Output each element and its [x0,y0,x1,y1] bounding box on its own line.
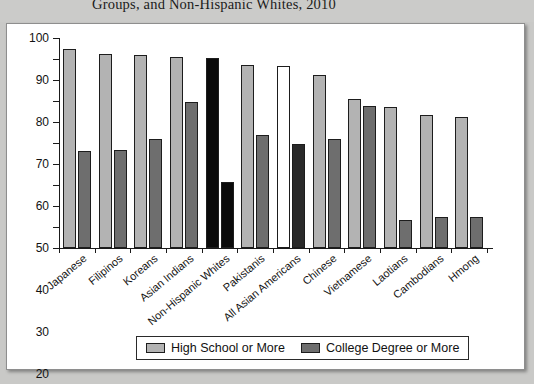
legend-item-high-school: High School or More [146,341,285,355]
bar [78,151,91,248]
bar [313,75,326,248]
bar-group [241,38,269,248]
bar [420,115,433,248]
legend-swatch-college [301,343,320,353]
bar-group [384,38,412,248]
y-axis-line [59,38,60,248]
y-tick-label: 50 [36,241,49,255]
bar [149,139,162,248]
legend-item-college: College Degree or More [301,341,459,355]
y-tick: 20 [53,206,59,207]
y-tick-label: 20 [36,367,49,381]
bar [114,150,127,248]
y-tick: 90 [53,59,59,60]
bar [241,65,254,248]
x-axis-line [59,248,493,249]
legend-swatch-high-school [146,343,165,353]
y-tick: 10 [53,227,59,228]
bar [256,135,269,248]
x-tick [487,248,488,253]
bar-group [99,38,127,248]
bar [134,55,147,248]
bar [328,139,341,248]
bar [399,220,412,248]
bar-group [206,38,234,248]
x-tick [416,248,417,253]
y-tick-label: 80 [36,115,49,129]
bar-group [134,38,162,248]
x-tick [344,248,345,253]
bar [455,117,468,248]
bar [363,106,376,248]
bar [170,57,183,248]
plot-area: 0102030405060708090100 JapaneseFilipinos… [53,38,487,248]
caption-strip: Groups, and Non-Hispanic Whites, 2010 [0,0,534,22]
figure-caption: Groups, and Non-Hispanic Whites, 2010 [92,0,336,13]
x-axis-label: Hmong [446,252,481,284]
y-tick: 60 [53,122,59,123]
y-tick-label: 90 [36,73,49,87]
bar [384,107,397,248]
bar [348,99,361,248]
y-tick-label: 30 [36,325,49,339]
x-axis-label: Filipinos [86,252,125,287]
legend-label-high-school: High School or More [171,341,285,355]
bar [185,102,198,248]
bar [470,217,483,249]
x-tick [202,248,203,253]
bar-group [277,38,305,248]
bar-group [420,38,448,248]
chart-legend: High School or More College Degree or Mo… [136,336,469,360]
x-tick [380,248,381,253]
y-tick-label: 60 [36,199,49,213]
bar-group [313,38,341,248]
y-tick-label: 70 [36,157,49,171]
y-tick-label: 100 [29,31,49,45]
x-tick [237,248,238,253]
y-tick: 80 [53,80,59,81]
x-tick [309,248,310,253]
bar-group [348,38,376,248]
bar [99,54,112,248]
y-tick: 100 [53,38,59,39]
bar-chart: 0102030405060708090100 JapaneseFilipinos… [47,38,487,263]
bar-group [455,38,483,248]
bar [435,217,448,249]
bar-group [170,38,198,248]
x-tick [59,248,60,253]
x-tick [451,248,452,253]
y-tick: 70 [53,101,59,102]
bar [277,66,290,248]
x-axis-label: Japanese [44,252,88,292]
x-tick [130,248,131,253]
bar [206,58,219,248]
legend-label-college: College Degree or More [326,341,459,355]
bar [292,144,305,248]
x-tick [95,248,96,253]
x-tick [166,248,167,253]
bar-group [63,38,91,248]
y-tick: 40 [53,164,59,165]
y-tick: 50 [53,143,59,144]
bar [221,182,234,248]
figure-panel: 0102030405060708090100 JapaneseFilipinos… [6,23,525,370]
x-tick [273,248,274,253]
y-tick: 30 [53,185,59,186]
bar [63,49,76,249]
